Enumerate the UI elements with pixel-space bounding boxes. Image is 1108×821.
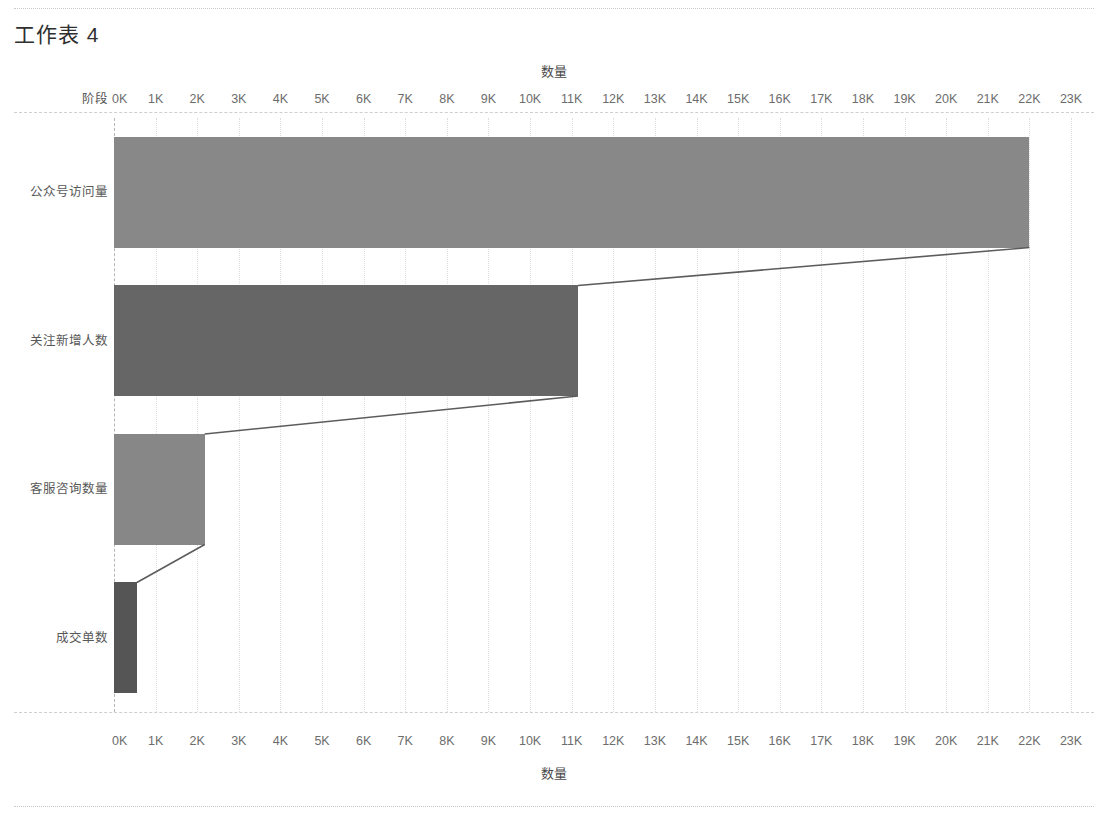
top-axis-ticks: 0K1K2K3K4K5K6K7K8K9K10K11K12K13K14K15K16… xyxy=(114,91,1071,107)
axis-tick-label: 1K xyxy=(148,733,163,749)
axis-tick-label: 13K xyxy=(644,733,666,749)
bottom-axis-ticks: 0K1K2K3K4K5K6K7K8K9K10K11K12K13K14K15K16… xyxy=(114,733,1071,749)
axis-tick-label: 14K xyxy=(685,91,707,107)
axis-tick-label: 7K xyxy=(398,733,413,749)
axis-tick-label: 2K xyxy=(190,91,205,107)
axis-tick-label: 0K xyxy=(112,91,127,107)
page-title: 工作表 4 xyxy=(14,22,100,48)
axis-tick-label: 7K xyxy=(398,91,413,107)
axis-tick-label: 8K xyxy=(439,733,454,749)
axis-tick-label: 23K xyxy=(1060,91,1082,107)
axis-tick-label: 14K xyxy=(685,733,707,749)
axis-tick-label: 18K xyxy=(852,733,874,749)
funnel-bar-chart: 数量 阶段 0K1K2K3K4K5K6K7K8K9K10K11K12K13K14… xyxy=(0,55,1108,755)
axis-tick-label: 0K xyxy=(112,733,127,749)
connector-line xyxy=(137,545,205,583)
top-axis-title: 数量 xyxy=(0,61,1108,80)
worksheet-page: 工作表 4 数量 阶段 0K1K2K3K4K5K6K7K8K9K10K11K12… xyxy=(0,0,1108,821)
axis-rule-upper xyxy=(14,112,1094,113)
axis-tick-label: 16K xyxy=(769,733,791,749)
axis-tick-label: 6K xyxy=(356,733,371,749)
gridline xyxy=(1071,118,1072,712)
axis-tick-label: 22K xyxy=(1018,733,1040,749)
axis-tick-label: 6K xyxy=(356,91,371,107)
axis-tick-label: 2K xyxy=(190,733,205,749)
axis-tick-label: 5K xyxy=(314,733,329,749)
axis-tick-label: 15K xyxy=(727,91,749,107)
category-label: 客服咨询数量 xyxy=(0,481,108,497)
axis-tick-label: 4K xyxy=(273,91,288,107)
bottom-axis-title: 数量 xyxy=(0,763,1108,782)
axis-tick-label: 21K xyxy=(977,733,999,749)
axis-tick-label: 17K xyxy=(810,733,832,749)
axis-tick-label: 9K xyxy=(481,733,496,749)
axis-tick-label: 9K xyxy=(481,91,496,107)
category-label: 公众号访问量 xyxy=(0,184,108,200)
axis-tick-label: 3K xyxy=(231,733,246,749)
axis-tick-label: 8K xyxy=(439,91,454,107)
bar[interactable] xyxy=(114,137,1029,248)
axis-tick-label: 3K xyxy=(231,91,246,107)
axis-tick-label: 12K xyxy=(602,91,624,107)
axis-tick-label: 16K xyxy=(769,91,791,107)
axis-tick-label: 17K xyxy=(810,91,832,107)
axis-tick-label: 10K xyxy=(519,91,541,107)
page-rule-bottom xyxy=(14,806,1094,807)
axis-tick-label: 4K xyxy=(273,733,288,749)
connector-line xyxy=(578,248,1029,286)
axis-tick-label: 21K xyxy=(977,91,999,107)
axis-tick-label: 10K xyxy=(519,733,541,749)
bar[interactable] xyxy=(114,285,578,396)
bar[interactable] xyxy=(114,582,137,693)
axis-tick-label: 19K xyxy=(893,91,915,107)
axis-tick-label: 20K xyxy=(935,733,957,749)
category-label: 关注新增人数 xyxy=(0,333,108,349)
axis-tick-label: 5K xyxy=(314,91,329,107)
gridline xyxy=(1029,118,1030,712)
axis-tick-label: 13K xyxy=(644,91,666,107)
axis-tick-label: 15K xyxy=(727,733,749,749)
axis-tick-label: 18K xyxy=(852,91,874,107)
connector-line xyxy=(205,396,578,434)
axis-tick-label: 19K xyxy=(893,733,915,749)
axis-rule-lower xyxy=(14,712,1094,713)
bar[interactable] xyxy=(114,434,205,545)
page-rule-top xyxy=(14,8,1094,9)
axis-tick-label: 11K xyxy=(561,91,582,107)
category-label: 成交单数 xyxy=(0,630,108,646)
category-axis-title: 阶段 xyxy=(60,91,108,107)
axis-tick-label: 22K xyxy=(1018,91,1040,107)
plot-area xyxy=(114,118,1071,712)
axis-tick-label: 20K xyxy=(935,91,957,107)
axis-tick-label: 23K xyxy=(1060,733,1082,749)
axis-tick-label: 11K xyxy=(561,733,582,749)
axis-tick-label: 12K xyxy=(602,733,624,749)
axis-tick-label: 1K xyxy=(148,91,163,107)
